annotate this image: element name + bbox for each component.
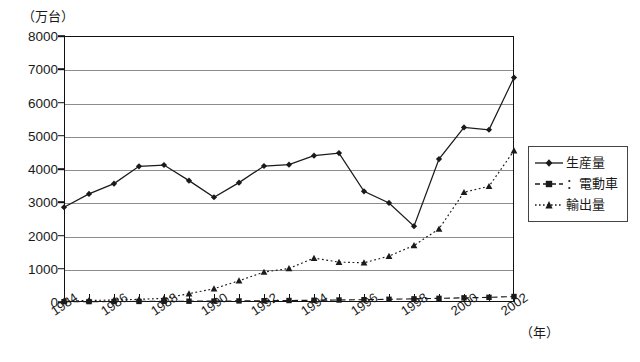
y-axis-tick-label: 4000 [2, 162, 58, 177]
chart-legend: 生産量 ：電動車 輸出量 [528, 146, 628, 222]
y-axis-tick-label: 3000 [2, 195, 58, 210]
data-point-marker [311, 255, 318, 261]
data-point-marker [411, 242, 418, 248]
data-point-marker [361, 297, 366, 302]
y-axis-tick-label: 5000 [2, 128, 58, 143]
series-2 [61, 294, 516, 305]
y-axis-tick-label: 1000 [2, 261, 58, 276]
legend-item-electric-vehicle: ：電動車 [534, 173, 623, 194]
y-axis-tick-label: 2000 [2, 228, 58, 243]
data-point-marker [236, 298, 241, 303]
data-point-marker [286, 162, 292, 168]
data-point-marker [286, 265, 293, 271]
legend-key-square-icon [534, 177, 564, 191]
data-point-marker [311, 153, 317, 159]
legend-label-electric-vehicle: ：電動車 [566, 177, 618, 190]
data-series-layer [64, 36, 514, 302]
legend-label-production: 生産量 [566, 156, 605, 169]
data-point-marker [386, 297, 391, 302]
y-axis-tick-label: 6000 [2, 95, 58, 110]
data-point-marker [486, 295, 491, 300]
data-point-marker [61, 204, 67, 210]
data-point-marker [511, 74, 517, 80]
legend-item-production: 生産量 [534, 152, 623, 173]
data-point-marker [386, 253, 393, 259]
data-point-marker [311, 298, 316, 303]
data-point-marker [211, 298, 216, 303]
series-line [64, 151, 514, 301]
chart-container: （万台） 010002000300040005000600070008000 1… [0, 0, 640, 362]
data-point-marker [261, 269, 268, 275]
data-point-marker [411, 296, 416, 301]
legend-key-diamond-icon [534, 156, 564, 170]
data-point-marker [511, 294, 516, 299]
data-point-marker [161, 162, 167, 168]
y-axis-unit-label: （万台） [22, 6, 74, 25]
y-axis-tick-label: 7000 [2, 62, 58, 77]
data-point-marker [261, 298, 266, 303]
y-axis-tick-label: 8000 [2, 29, 58, 44]
data-point-marker [286, 298, 291, 303]
series-1 [61, 74, 517, 229]
data-point-marker [511, 147, 518, 153]
data-point-marker [211, 285, 218, 291]
data-point-marker [86, 191, 92, 197]
legend-label-export: 輸出量 [566, 198, 605, 211]
data-point-marker [486, 127, 492, 133]
data-point-marker [336, 150, 342, 156]
data-point-marker [436, 296, 441, 301]
data-point-marker [336, 297, 341, 302]
series-line [64, 78, 514, 227]
legend-key-triangle-icon [534, 198, 564, 212]
data-point-marker [361, 188, 367, 194]
x-axis-unit-label: （年） [520, 322, 559, 341]
series-3 [61, 147, 518, 303]
data-point-marker [461, 295, 466, 300]
data-point-marker [236, 277, 243, 283]
legend-item-export: 輸出量 [534, 194, 623, 215]
data-point-marker [186, 299, 191, 304]
